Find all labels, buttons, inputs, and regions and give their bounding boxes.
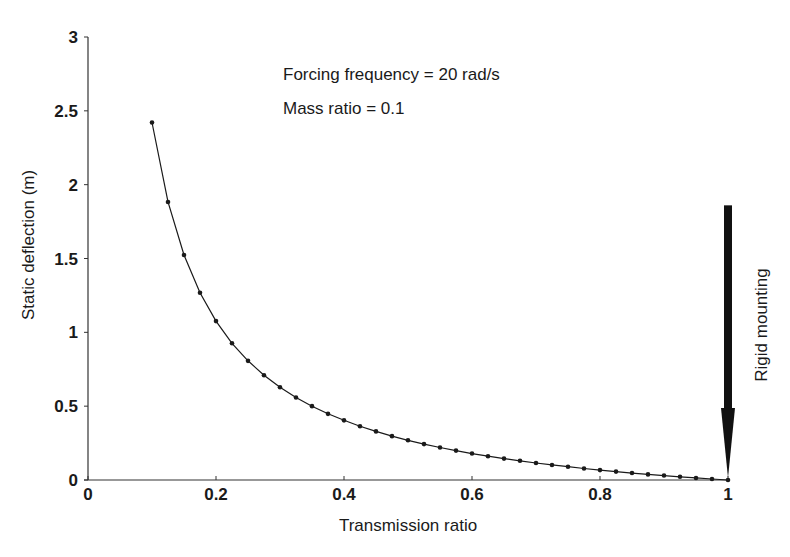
data-point [406, 438, 411, 443]
y-axis-title: Static deflection (m) [19, 170, 38, 320]
data-point [726, 478, 731, 483]
annotation-forcing-frequency: Forcing frequency = 20 rad/s [283, 65, 500, 84]
data-point [710, 477, 715, 482]
x-tick-label: 0.4 [332, 485, 356, 504]
y-tick-label: 3 [69, 28, 78, 47]
data-point [198, 290, 203, 295]
data-point [182, 253, 187, 258]
data-line [152, 123, 728, 481]
data-point [390, 434, 395, 439]
data-point [630, 471, 635, 476]
y-tick-label: 0 [69, 471, 78, 490]
data-point [470, 451, 475, 456]
y-axis-ticks: 00.511.522.53 [54, 28, 88, 490]
data-point [550, 463, 555, 468]
chart-canvas: 00.20.40.60.81 00.511.522.53 Forcing fre… [0, 0, 790, 557]
data-point [422, 442, 427, 447]
y-tick-label: 1 [69, 323, 78, 342]
data-point [262, 373, 267, 378]
data-point [342, 418, 347, 423]
data-point [214, 319, 219, 324]
data-point [598, 468, 603, 473]
data-point [150, 120, 155, 125]
x-axis-title: Transmission ratio [339, 516, 477, 535]
rigid-mounting-arrow-icon [721, 205, 735, 478]
data-point [582, 466, 587, 471]
data-series [150, 120, 731, 482]
data-point [502, 456, 507, 461]
x-tick-label: 1 [723, 485, 732, 504]
data-point [646, 472, 651, 477]
data-point [566, 464, 571, 469]
x-tick-label: 0.6 [460, 485, 484, 504]
y-tick-label: 2 [69, 176, 78, 195]
data-point [438, 445, 443, 450]
axes [84, 37, 728, 480]
data-point [278, 385, 283, 390]
x-tick-label: 0.2 [204, 485, 228, 504]
data-point [454, 448, 459, 453]
data-point [166, 200, 171, 205]
data-point [518, 459, 523, 464]
x-tick-label: 0.8 [588, 485, 612, 504]
data-point [678, 474, 683, 479]
data-point [694, 476, 699, 481]
data-point [374, 429, 379, 434]
data-point [246, 359, 251, 364]
y-tick-label: 1.5 [54, 250, 78, 269]
data-point [310, 404, 315, 409]
data-point [294, 395, 299, 400]
y-tick-label: 2.5 [54, 102, 78, 121]
x-tick-label: 0 [83, 485, 92, 504]
data-point [534, 461, 539, 466]
data-point [326, 412, 331, 417]
annotation-rigid-mounting: Rigid mounting [752, 268, 771, 381]
data-point [358, 424, 363, 429]
data-point [230, 341, 235, 346]
y-tick-label: 0.5 [54, 397, 78, 416]
annotation-mass-ratio: Mass ratio = 0.1 [283, 99, 404, 118]
data-point [662, 473, 667, 478]
data-point [486, 454, 491, 459]
data-point [614, 469, 619, 474]
